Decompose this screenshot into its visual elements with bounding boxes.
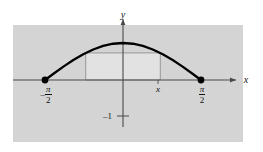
- left-endpoint-dot: [42, 77, 49, 84]
- right-endpoint-dot: [198, 77, 205, 84]
- right-endpoint-denominator: 2: [199, 95, 206, 105]
- left-endpoint-fraction: π2: [45, 84, 52, 105]
- right-endpoint-label: π2: [194, 84, 210, 105]
- y-axis-label: y: [120, 9, 126, 20]
- left-endpoint-numerator: π: [45, 84, 52, 95]
- minus-one-label: –1: [102, 111, 112, 121]
- left-endpoint-denominator: 2: [45, 95, 52, 105]
- x-point-label: x: [155, 84, 160, 94]
- left-endpoint-label: –π2: [33, 84, 59, 105]
- figure-container: y x x –1 –π2 π2: [0, 0, 263, 152]
- cosine-rectangle-plot: y x x –1: [0, 0, 263, 152]
- right-endpoint-numerator: π: [199, 84, 206, 95]
- right-endpoint-fraction: π2: [199, 84, 206, 105]
- x-axis-label: x: [243, 74, 249, 85]
